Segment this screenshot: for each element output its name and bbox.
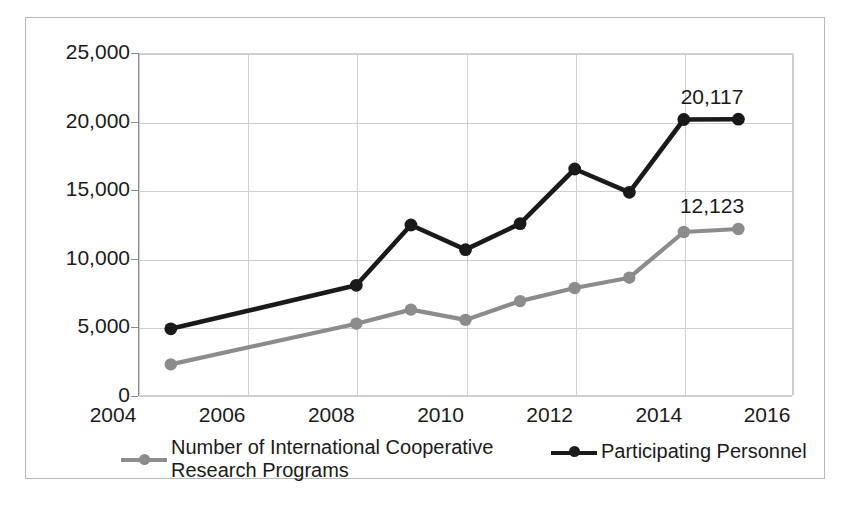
x-tick-label-2008: 2008 [308, 403, 355, 427]
series-point-personnel [164, 322, 177, 335]
x-tick-label-2006: 2006 [199, 403, 246, 427]
y-tick-mark-25000 [131, 53, 138, 54]
x-tick-label-2016: 2016 [744, 403, 791, 427]
series-point-personnel [568, 163, 581, 176]
series-point-personnel [514, 217, 527, 230]
y-tick-label-5000: 5,000 [77, 314, 130, 338]
legend-label-personnel: Participating Personnel [601, 440, 807, 463]
x-tick-label-2012: 2012 [526, 403, 573, 427]
x-tick-label-2014: 2014 [635, 403, 682, 427]
datalabel-programs-2015: 12,123 [680, 194, 744, 218]
legend-item-personnel[interactable]: Participating Personnel [551, 440, 851, 463]
series-line-programs [171, 229, 739, 364]
y-tick-mark-0 [131, 396, 138, 397]
series-point-personnel [350, 279, 363, 292]
gridline-x-2016 [793, 54, 794, 395]
legend-item-programs[interactable]: Number of International Cooperative Rese… [121, 436, 521, 482]
y-tick-mark-20000 [131, 122, 138, 123]
datalabel-personnel-2015: 20,117 [681, 85, 744, 109]
series-point-personnel [732, 113, 745, 126]
series-point-programs [165, 358, 177, 370]
series-point-programs [514, 295, 526, 307]
x-axis-tick-labels: 2004 2006 2008 2010 2012 2014 2016 [26, 403, 826, 433]
series-point-programs [569, 282, 581, 294]
y-tick-mark-15000 [131, 190, 138, 191]
y-tick-label-10000: 10,000 [66, 246, 130, 270]
series-point-programs [350, 318, 362, 330]
series-line-personnel [171, 119, 739, 329]
y-tick-mark-10000 [131, 259, 138, 260]
x-tick-label-2004: 2004 [90, 403, 137, 427]
series-point-programs [732, 223, 744, 235]
y-tick-label-20000: 20,000 [66, 109, 130, 133]
series-point-programs [678, 226, 690, 238]
series-point-personnel [405, 219, 418, 232]
chart-figure: 25,000 20,000 15,000 10,000 5,000 0 [0, 0, 855, 508]
series-point-personnel [623, 186, 636, 199]
chart-legend: Number of International Cooperative Rese… [26, 436, 826, 480]
legend-label-programs: Number of International Cooperative Rese… [171, 436, 521, 482]
gridline-y-0 [139, 396, 792, 397]
series-point-programs [405, 303, 417, 315]
y-tick-mark-5000 [131, 327, 138, 328]
series-point-programs [623, 272, 635, 284]
series-point-personnel [459, 243, 472, 256]
legend-swatch-programs-icon [121, 450, 167, 468]
x-tick-label-2010: 2010 [417, 403, 464, 427]
legend-swatch-personnel-icon [551, 443, 597, 461]
y-tick-label-25000: 25,000 [66, 40, 130, 64]
series-point-personnel [677, 113, 690, 126]
y-tick-label-15000: 15,000 [66, 177, 130, 201]
series-point-programs [459, 314, 471, 326]
chart-frame: 25,000 20,000 15,000 10,000 5,000 0 [25, 17, 825, 479]
